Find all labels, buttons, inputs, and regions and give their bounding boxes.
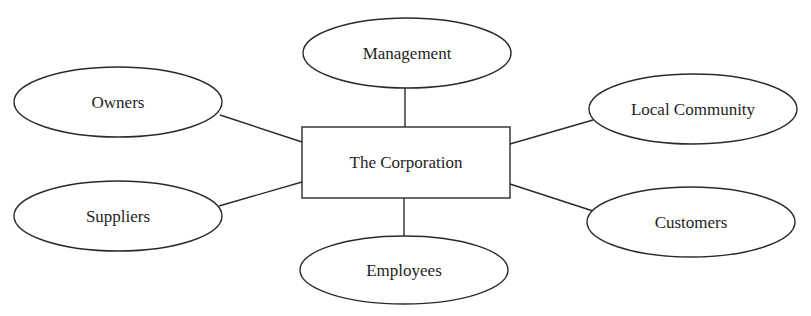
center-node: The Corporation <box>302 127 510 198</box>
node-owners: Owners <box>14 67 222 137</box>
edge-owners <box>220 115 302 142</box>
employees-label: Employees <box>366 261 442 280</box>
edge-suppliers <box>219 182 302 206</box>
suppliers-label: Suppliers <box>86 207 150 226</box>
edge-local-community <box>510 120 593 144</box>
node-customers: Customers <box>587 187 795 257</box>
management-label: Management <box>363 44 452 63</box>
node-local-community: Local Community <box>589 74 797 144</box>
node-management: Management <box>303 18 511 88</box>
customers-label: Customers <box>655 213 728 232</box>
corporation-label: The Corporation <box>350 153 463 172</box>
owners-label: Owners <box>92 93 145 112</box>
stakeholder-diagram: The Corporation ManagementOwnersLocal Co… <box>0 0 811 316</box>
local-community-label: Local Community <box>631 100 756 119</box>
node-suppliers: Suppliers <box>14 181 222 251</box>
edge-customers <box>510 184 593 211</box>
node-employees: Employees <box>300 236 508 304</box>
